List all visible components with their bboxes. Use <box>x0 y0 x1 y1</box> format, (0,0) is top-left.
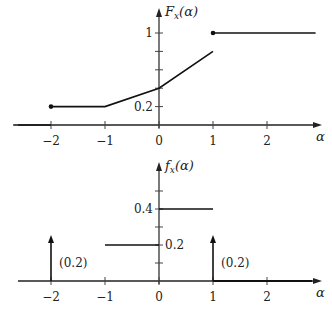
pdf-plot: fx(α)α−2−10120.20.4(0.2)(0.2) <box>18 158 325 304</box>
impulse-label: (0.2) <box>59 256 87 270</box>
x-tick-label: −1 <box>96 290 114 304</box>
x-tick-label: 1 <box>209 134 217 148</box>
x-tick-label: 1 <box>209 290 217 304</box>
data-point <box>49 104 54 109</box>
x-tick-label: 2 <box>263 290 271 304</box>
y-axis-label: fx(α) <box>164 158 194 175</box>
x-axis-arrow <box>313 122 322 128</box>
y-tick-label: 0.4 <box>134 202 153 216</box>
figure: Fx(α)α−2−10120.21 fx(α)α−2−10120.20.4(0.… <box>0 0 332 311</box>
y-axis-label: Fx(α) <box>164 4 198 21</box>
y-axis-arrow <box>156 8 162 17</box>
x-axis-arrow <box>313 278 322 284</box>
x-axis-label: α <box>316 129 325 144</box>
data-line <box>51 51 213 106</box>
cdf-plot: Fx(α)α−2−10120.21 <box>13 4 325 148</box>
x-tick-label: −2 <box>42 134 60 148</box>
impulse-arrow <box>210 235 216 243</box>
y-tick-label: 1 <box>145 26 153 40</box>
x-tick-label: −2 <box>42 290 60 304</box>
y-tick-label: 0.2 <box>165 238 184 252</box>
impulse-label: (0.2) <box>221 256 249 270</box>
x-tick-label: −1 <box>96 134 114 148</box>
x-tick-label: 0 <box>155 290 163 304</box>
x-axis-label: α <box>316 285 325 300</box>
data-point <box>211 31 216 36</box>
y-axis-arrow <box>156 162 162 171</box>
y-tick-label: 0.2 <box>134 100 153 114</box>
x-tick-label: 0 <box>155 134 163 148</box>
x-tick-label: 2 <box>263 134 271 148</box>
impulse-arrow <box>48 235 54 243</box>
